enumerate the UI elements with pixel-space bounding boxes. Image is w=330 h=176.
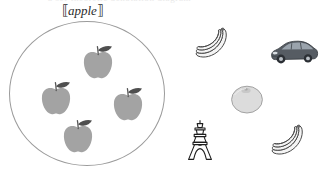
apple-icon <box>78 43 118 81</box>
banana-bunch-icon <box>190 27 232 63</box>
set-label-text: apple <box>68 3 97 18</box>
orange-icon <box>230 84 264 114</box>
tower-icon <box>186 119 214 161</box>
banana-bunch-icon <box>266 124 310 162</box>
set-label: ⟦apple⟧ <box>62 2 182 19</box>
apple-icon <box>58 117 98 155</box>
set-label-close-bracket: ⟧ <box>97 3 103 18</box>
apple-icon <box>108 85 148 123</box>
apple-icon <box>36 79 76 117</box>
denotation-figure: a set-theoretic denotation diagram ⟦appl… <box>0 0 330 176</box>
car-icon <box>269 39 319 65</box>
